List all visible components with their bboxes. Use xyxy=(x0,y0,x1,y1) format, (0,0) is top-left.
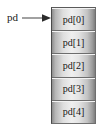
array-block: pd[0] pd[1] pd[2] pd[3] pd[4] xyxy=(51,7,96,124)
array-cell: pd[0] xyxy=(52,8,95,31)
right-arrow-icon xyxy=(22,12,52,24)
array-cell-label: pd[0] xyxy=(63,14,85,25)
array-cell-label: pd[1] xyxy=(63,37,85,48)
array-cell-label: pd[3] xyxy=(63,83,85,94)
array-cell-label: pd[4] xyxy=(63,106,85,117)
pointer-array-diagram: pd pd[0] pd[1] pd[2] pd[3] pd[4] xyxy=(0,0,103,131)
array-cell: pd[1] xyxy=(52,31,95,54)
array-cell: pd[3] xyxy=(52,78,95,101)
array-cell: pd[4] xyxy=(52,101,95,123)
pointer-variable-label: pd xyxy=(7,11,18,23)
array-cell-label: pd[2] xyxy=(63,60,85,71)
array-cell: pd[2] xyxy=(52,54,95,77)
